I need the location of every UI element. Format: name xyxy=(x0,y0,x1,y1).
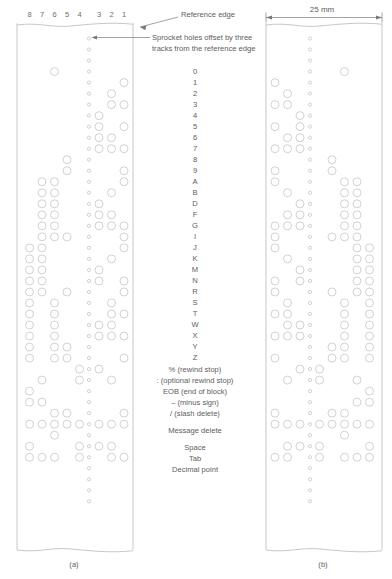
tape-vector-layer xyxy=(0,0,392,579)
figure-canvas: 87654321 0123456789ABDFGIJKMNRSTWXYZ% (r… xyxy=(0,0,392,579)
